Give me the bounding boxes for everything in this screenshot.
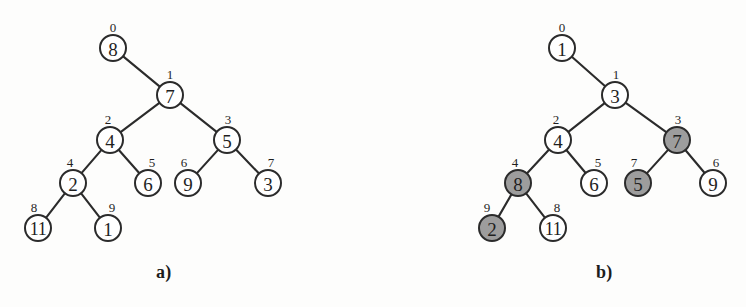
node-value: 9 bbox=[183, 174, 193, 195]
tree-edge bbox=[571, 56, 606, 87]
tree-node[interactable]: 42 bbox=[545, 112, 571, 154]
node-value: 4 bbox=[105, 131, 115, 152]
tree-edge bbox=[118, 149, 140, 174]
node-value: 3 bbox=[610, 86, 620, 107]
tree-edge bbox=[235, 149, 259, 175]
node-index-label: 7 bbox=[631, 155, 638, 170]
tree-node[interactable]: 19 bbox=[95, 200, 121, 242]
tree-node[interactable]: 118 bbox=[540, 200, 566, 242]
tree-edge bbox=[81, 149, 102, 174]
node-index-label: 1 bbox=[167, 67, 174, 82]
tree-node[interactable]: 10 bbox=[549, 20, 575, 62]
node-value: 11 bbox=[30, 219, 46, 239]
node-value: 7 bbox=[672, 131, 682, 152]
tree-edge bbox=[80, 192, 100, 218]
tree-node[interactable]: 96 bbox=[175, 155, 201, 197]
binary-tree-figure: 8071425324659637118191031427384655796291… bbox=[0, 0, 746, 307]
node-index-label: 8 bbox=[554, 200, 561, 215]
node-index-label: 2 bbox=[553, 112, 560, 127]
node-value: 7 bbox=[165, 86, 175, 107]
tree-node[interactable]: 42 bbox=[97, 112, 123, 154]
node-value: 5 bbox=[633, 174, 643, 195]
node-value: 11 bbox=[545, 219, 561, 239]
node-index-label: 4 bbox=[67, 155, 74, 170]
node-index-label: 4 bbox=[512, 155, 519, 170]
tree-edge bbox=[120, 102, 161, 133]
node-value: 5 bbox=[222, 131, 232, 152]
tree-node[interactable]: 118 bbox=[25, 200, 51, 242]
node-value: 3 bbox=[263, 174, 273, 195]
tree-edge bbox=[498, 193, 512, 217]
tree-edge bbox=[196, 149, 219, 174]
tree-node[interactable]: 53 bbox=[214, 112, 240, 154]
tree-node[interactable]: 24 bbox=[60, 155, 86, 197]
node-index-label: 0 bbox=[559, 20, 566, 35]
tree-edge bbox=[566, 149, 587, 174]
tree-panel-b: 103142738465579629118 bbox=[479, 20, 726, 242]
node-index-label: 2 bbox=[105, 112, 112, 127]
tree-node[interactable]: 37 bbox=[255, 155, 281, 197]
tree-node[interactable]: 65 bbox=[135, 155, 161, 197]
node-index-label: 5 bbox=[595, 155, 602, 170]
node-index-label: 9 bbox=[109, 200, 116, 215]
tree-edge bbox=[625, 102, 668, 133]
node-index-label: 5 bbox=[149, 155, 156, 170]
node-index-label: 1 bbox=[613, 67, 620, 82]
panel-caption-b: b) bbox=[596, 262, 613, 283]
node-index-label: 3 bbox=[225, 112, 232, 127]
tree-edge bbox=[525, 192, 545, 218]
node-index-label: 8 bbox=[31, 200, 38, 215]
tree-node[interactable]: 65 bbox=[581, 155, 607, 197]
tree-edge bbox=[567, 102, 605, 132]
tree-node[interactable]: 31 bbox=[602, 67, 628, 109]
node-index-label: 6 bbox=[181, 155, 188, 170]
tree-node[interactable]: 71 bbox=[157, 67, 183, 109]
node-index-label: 0 bbox=[110, 20, 117, 35]
node-value: 6 bbox=[589, 174, 599, 195]
tree-diagram-canvas: 8071425324659637118191031427384655796291… bbox=[0, 0, 746, 307]
node-index-label: 7 bbox=[268, 155, 275, 170]
tree-node[interactable]: 80 bbox=[100, 20, 126, 62]
tree-edge bbox=[685, 149, 706, 174]
tree-node[interactable]: 84 bbox=[505, 155, 531, 197]
panel-caption-a: a) bbox=[156, 262, 172, 283]
tree-edge bbox=[646, 149, 669, 174]
node-value: 2 bbox=[487, 219, 497, 240]
tree-node[interactable]: 29 bbox=[479, 200, 505, 242]
node-index-label: 9 bbox=[484, 200, 491, 215]
node-value: 9 bbox=[708, 174, 718, 195]
tree-edge bbox=[122, 56, 160, 88]
node-value: 1 bbox=[557, 39, 567, 60]
tree-panel-a: 807142532465963711819 bbox=[25, 20, 281, 242]
tree-edge bbox=[45, 192, 65, 218]
node-value: 8 bbox=[513, 174, 523, 195]
tree-node[interactable]: 57 bbox=[625, 155, 651, 197]
tree-edge bbox=[179, 102, 217, 132]
tree-node[interactable]: 73 bbox=[664, 112, 690, 154]
tree-edge bbox=[526, 149, 550, 174]
node-value: 4 bbox=[553, 131, 563, 152]
node-value: 8 bbox=[108, 39, 118, 60]
tree-node[interactable]: 96 bbox=[700, 155, 726, 197]
node-value: 6 bbox=[143, 174, 153, 195]
node-index-label: 6 bbox=[713, 155, 720, 170]
node-index-label: 3 bbox=[675, 112, 682, 127]
node-value: 2 bbox=[68, 174, 78, 195]
node-value: 1 bbox=[103, 219, 113, 240]
